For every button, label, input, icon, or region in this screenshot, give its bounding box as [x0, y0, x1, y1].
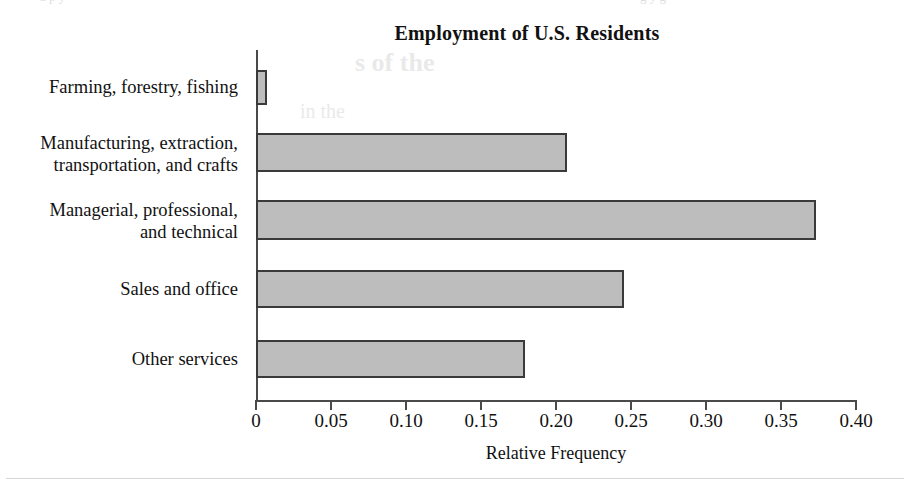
chart-title: Employment of U.S. Residents: [0, 22, 910, 45]
x-axis-title: Relative Frequency: [256, 443, 856, 464]
x-axis-tick-label: 0: [216, 410, 296, 432]
x-axis-tick-label: 0.30: [666, 410, 746, 432]
x-axis-tick-label: 0.40: [816, 410, 896, 432]
x-axis-tick-label: 0.15: [441, 410, 521, 432]
chart-figure: a p y g y g s of the in the Employment o…: [0, 0, 910, 490]
x-axis-tick: [330, 400, 332, 410]
category-label: Sales and office: [4, 278, 246, 300]
x-axis-tick: [555, 400, 557, 410]
category-label: Managerial, professional, and technical: [4, 199, 246, 243]
category-label: Manufacturing, extraction, transportatio…: [4, 132, 246, 176]
x-axis-tick: [780, 400, 782, 410]
chart-title-text: Employment of U.S. Residents: [394, 22, 659, 45]
x-axis-tick: [405, 400, 407, 410]
scan-fragment-right: g y g: [640, 0, 666, 5]
x-axis-tick-label: 0.20: [516, 410, 596, 432]
bar: [256, 200, 816, 240]
x-axis-tick-label: 0.25: [591, 410, 671, 432]
x-axis-tick: [630, 400, 632, 410]
scan-ghost-a: s of the: [355, 48, 434, 78]
x-axis-tick-label: 0.10: [366, 410, 446, 432]
category-label: Farming, forestry, fishing: [4, 76, 246, 98]
x-axis-tick: [705, 400, 707, 410]
x-axis-tick: [855, 400, 857, 410]
scan-artifact-bottom-rule: [6, 478, 904, 479]
bar: [256, 70, 267, 105]
scan-fragment-left: a p y: [40, 0, 65, 5]
category-label: Other services: [4, 348, 246, 370]
x-axis-tick: [255, 400, 257, 410]
x-axis-tick-label: 0.05: [291, 410, 371, 432]
x-axis-tick-label: 0.35: [741, 410, 821, 432]
scan-ghost-b: in the: [300, 100, 345, 123]
bar: [256, 340, 525, 378]
scan-artifact-top: a p y g y g: [0, 0, 910, 10]
bar: [256, 270, 624, 308]
bar: [256, 133, 567, 172]
x-axis-tick: [480, 400, 482, 410]
